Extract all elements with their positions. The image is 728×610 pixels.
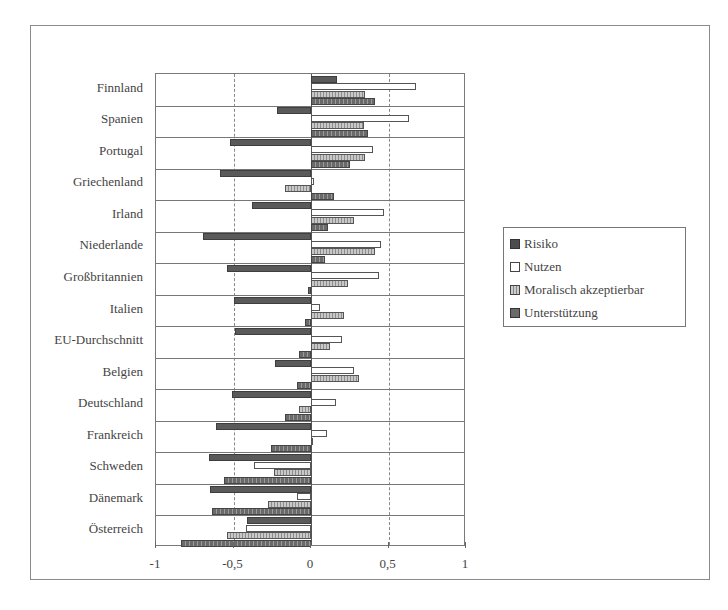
- bar-unterstützung: [271, 445, 311, 452]
- bar-nutzen: [311, 430, 327, 437]
- legend-item-risiko: Risiko: [510, 232, 679, 255]
- bar-moralisch-akzeptierbar: [274, 469, 311, 476]
- bar-nutzen: [311, 399, 336, 406]
- category-label: EU-Durchschnitt: [54, 332, 143, 348]
- bar-nutzen: [311, 115, 409, 122]
- bar-unterstützung: [311, 130, 368, 137]
- category-label: Niederlande: [79, 237, 143, 253]
- bar-nutzen: [311, 83, 416, 90]
- x-tick: [310, 542, 311, 548]
- bar-risiko: [230, 139, 311, 146]
- bar-risiko: [216, 423, 311, 430]
- bar-nutzen: [311, 272, 379, 279]
- legend-item-moralisch: Moralisch akzeptierbar: [510, 278, 679, 301]
- bar-unterstützung: [311, 98, 375, 105]
- category-label: Griechenland: [73, 174, 143, 190]
- bar-risiko: [203, 233, 312, 240]
- legend-swatch-unterstuetzung: [510, 308, 520, 318]
- bar-risiko: [247, 517, 311, 524]
- bar-nutzen: [254, 462, 311, 469]
- bar-risiko: [227, 265, 311, 272]
- bar-nutzen: [311, 241, 381, 248]
- bar-moralisch-akzeptierbar: [311, 248, 375, 255]
- legend-item-unterstuetzung: Unterstützung: [510, 301, 679, 324]
- bar-risiko: [220, 170, 311, 177]
- bar-nutzen: [311, 209, 384, 216]
- bar-risiko: [234, 297, 312, 304]
- x-tick: [388, 542, 389, 548]
- category-label: Dänemark: [89, 490, 143, 506]
- bar-nutzen: [311, 178, 314, 185]
- legend-swatch-nutzen: [510, 262, 520, 272]
- bar-risiko: [235, 328, 311, 335]
- bar-unterstützung: [297, 382, 311, 389]
- bar-nutzen: [311, 336, 342, 343]
- bar-risiko: [210, 486, 311, 493]
- legend: Risiko Nutzen Moralisch akzeptierbar Unt…: [503, 227, 686, 327]
- category-label: Schweden: [90, 458, 143, 474]
- category-label: Österreich: [89, 521, 143, 537]
- legend-label: Nutzen: [524, 259, 562, 275]
- bar-moralisch-akzeptierbar: [311, 154, 365, 161]
- bar-moralisch-akzeptierbar: [311, 91, 365, 98]
- category-label: Deutschland: [78, 395, 143, 411]
- category-label: Frankreich: [87, 427, 143, 443]
- bar-moralisch-akzeptierbar: [311, 122, 364, 129]
- bar-nutzen: [311, 367, 354, 374]
- bar-unterstützung: [285, 414, 311, 421]
- x-tick: [465, 542, 466, 548]
- legend-item-nutzen: Nutzen: [510, 255, 679, 278]
- category-label: Spanien: [101, 111, 143, 127]
- category-label: Portugal: [99, 143, 143, 159]
- bar-risiko: [311, 76, 337, 83]
- legend-label: Risiko: [524, 236, 558, 252]
- bar-risiko: [277, 107, 311, 114]
- bar-moralisch-akzeptierbar: [299, 406, 311, 413]
- x-tick-label: 1: [462, 556, 469, 572]
- plot-area: [155, 73, 465, 546]
- bar-nutzen: [311, 304, 320, 311]
- bar-unterstützung: [212, 508, 311, 515]
- bar-risiko: [209, 454, 311, 461]
- category-label: Finnland: [97, 80, 143, 96]
- bar-moralisch-akzeptierbar: [311, 312, 344, 319]
- bar-unterstützung: [311, 193, 334, 200]
- bar-moralisch-akzeptierbar: [311, 280, 348, 287]
- bar-unterstützung: [311, 256, 325, 263]
- x-tick: [233, 542, 234, 548]
- bar-unterstützung: [181, 540, 311, 547]
- legend-swatch-moralisch: [510, 285, 520, 295]
- legend-label: Unterstützung: [524, 305, 598, 321]
- category-label: Irland: [112, 206, 143, 222]
- x-tick-label: -0,5: [222, 556, 243, 572]
- legend-swatch-risiko: [510, 239, 520, 249]
- bar-unterstützung: [224, 477, 311, 484]
- bar-unterstützung: [308, 287, 311, 294]
- category-label: Großbritannien: [64, 269, 143, 285]
- bar-moralisch-akzeptierbar: [311, 343, 330, 350]
- bar-unterstützung: [299, 351, 311, 358]
- bar-unterstützung: [305, 319, 311, 326]
- bar-unterstützung: [311, 161, 350, 168]
- gridline: [389, 74, 390, 545]
- category-label: Belgien: [103, 364, 143, 380]
- bar-nutzen: [297, 493, 311, 500]
- bar-moralisch-akzeptierbar: [285, 185, 311, 192]
- bar-unterstützung: [311, 224, 328, 231]
- bar-risiko: [275, 360, 311, 367]
- bar-risiko: [232, 391, 311, 398]
- bar-moralisch-akzeptierbar: [311, 217, 354, 224]
- bar-nutzen: [311, 146, 373, 153]
- bar-moralisch-akzeptierbar: [227, 532, 311, 539]
- bar-moralisch-akzeptierbar: [311, 438, 313, 445]
- category-label: Italien: [110, 301, 143, 317]
- x-tick-label: 0: [307, 556, 314, 572]
- x-tick-label: -1: [150, 556, 161, 572]
- x-tick: [155, 542, 156, 548]
- legend-label: Moralisch akzeptierbar: [524, 282, 644, 298]
- bar-moralisch-akzeptierbar: [311, 375, 359, 382]
- bar-moralisch-akzeptierbar: [268, 501, 311, 508]
- bar-nutzen: [246, 525, 311, 532]
- x-tick-label: 0,5: [379, 556, 395, 572]
- bar-risiko: [252, 202, 311, 209]
